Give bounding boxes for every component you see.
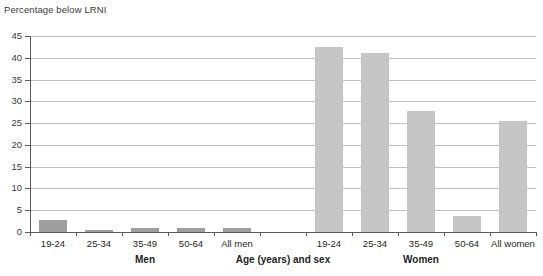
bar [453,216,481,232]
x-tick [122,232,123,236]
x-tick [536,232,537,236]
x-tick [214,232,215,236]
y-tick-25 [25,123,30,124]
bars-layer [30,36,536,232]
x-tick [260,232,261,236]
x-tick [490,232,491,236]
y-tick-15 [25,167,30,168]
y-tick-label-10: 10 [0,182,22,193]
x-tick-label: 25-34 [352,238,398,249]
bar [177,228,205,232]
y-tick-35 [25,80,30,81]
x-tick-label: All men [214,238,260,249]
x-tick [30,232,31,236]
y-axis-title: Percentage below LRNI [4,4,106,15]
x-tick [306,232,307,236]
y-tick-10 [25,188,30,189]
x-tick-label: 35-49 [398,238,444,249]
bar [499,121,527,232]
x-tick [398,232,399,236]
bar [407,111,435,232]
y-tick-label-35: 35 [0,74,22,85]
y-tick-30 [25,101,30,102]
plot-area [30,36,536,232]
bar [315,47,343,232]
x-tick [168,232,169,236]
bar [85,230,113,232]
y-tick-label-0: 0 [0,226,22,237]
y-tick-20 [25,145,30,146]
y-tick-label-5: 5 [0,204,22,215]
y-tick-label-15: 15 [0,161,22,172]
group-label-men: Men [30,254,260,265]
y-tick-label-45: 45 [0,30,22,41]
bar [39,220,67,232]
group-label-women: Women [306,254,536,265]
x-tick-label: 35-49 [122,238,168,249]
x-tick [352,232,353,236]
x-tick-label: 25-34 [76,238,122,249]
y-tick-label-40: 40 [0,52,22,63]
x-tick-label: 50-64 [168,238,214,249]
y-tick-label-20: 20 [0,139,22,150]
x-tick-label: 50-64 [444,238,490,249]
y-tick-label-30: 30 [0,95,22,106]
y-tick-label-25: 25 [0,117,22,128]
x-tick [444,232,445,236]
y-tick-5 [25,210,30,211]
x-tick-label: 19-24 [306,238,352,249]
y-tick-45 [25,36,30,37]
x-tick-label: 19-24 [30,238,76,249]
y-axis-line [30,36,31,233]
bar [223,228,251,232]
gridline-0 [30,232,536,233]
x-tick-label: All women [490,238,536,249]
bar-chart: Percentage below LRNI 051015202530354045… [0,0,543,276]
bar [361,53,389,232]
bar [131,228,159,232]
y-tick-40 [25,58,30,59]
x-tick [76,232,77,236]
